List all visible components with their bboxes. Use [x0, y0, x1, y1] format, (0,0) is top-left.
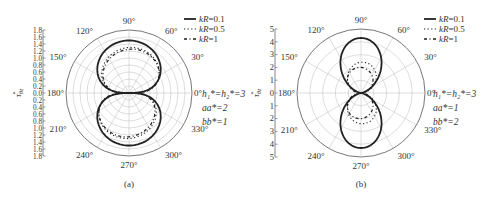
parameter-text: h₁*=h₂*=3: [202, 89, 245, 99]
axis-tick-label: 1.8: [33, 153, 42, 161]
axis-tick-label: 3: [270, 49, 274, 59]
angle-label: 120°: [307, 25, 325, 35]
legend-label-value: =0.1: [449, 14, 465, 24]
legend-label: kR=1: [199, 34, 218, 44]
legend-label-value: =1: [449, 34, 459, 44]
angle-label: 60°: [398, 25, 411, 35]
legend-label-value: =0.5: [209, 24, 226, 34]
legend: kR=0.1kR=0.5kR=1: [184, 14, 225, 44]
panel-label: (b): [356, 179, 367, 189]
legend-label: kR=0.1: [439, 14, 465, 24]
y-axis-label: τθz*: [12, 88, 24, 97]
angle-label: 90°: [355, 15, 368, 25]
angle-label: 300°: [398, 151, 416, 161]
parameter-text: aa*=1: [433, 103, 458, 113]
y-axis-label-subscript: θz: [18, 88, 24, 94]
angle-label: 120°: [76, 26, 94, 36]
legend-label: kR=0.1: [199, 14, 225, 24]
panel-label: (a): [124, 179, 134, 189]
panel-b-polar-chart: 0°30°60°90°120°150°180°210°240°270°300°3…: [250, 14, 476, 189]
panel-a-polar-chart: 0°30°60°90°120°150°180°210°240°270°300°3…: [12, 14, 245, 189]
angle-label: 300°: [165, 150, 183, 160]
figure: 0°30°60°90°120°150°180°210°240°270°300°3…: [0, 0, 480, 199]
legend-label-var: kR: [439, 24, 449, 34]
angle-label: 270°: [120, 160, 138, 170]
axis-tick-label: 4: [270, 139, 275, 149]
angle-label: 150°: [281, 52, 299, 62]
y-axis-label-subscript: θz: [256, 88, 262, 94]
parameter-text: bb*=1: [202, 117, 227, 127]
angle-label: 270°: [352, 161, 370, 171]
radial-axis: 1.81.61.41.21.00.80.60.40.20.00.20.40.60…: [12, 27, 46, 161]
parameter-text: h₁*=h₂*=3: [433, 89, 476, 99]
y-axis-label: τθz*: [250, 88, 262, 97]
axis-tick-label: 1: [270, 101, 274, 111]
y-axis-label-superscript: *: [250, 92, 256, 95]
angle-label: 210°: [50, 124, 68, 134]
legend-label: kR=0.5: [199, 24, 225, 34]
angle-label: 30°: [191, 52, 204, 62]
angle-label: 240°: [76, 150, 94, 160]
legend-label-var: kR: [199, 24, 209, 34]
legend-label: kR=0.5: [439, 24, 465, 34]
legend-label-value: =0.1: [209, 14, 225, 24]
legend-label-var: kR: [439, 34, 449, 44]
axis-tick-label: 2: [270, 62, 274, 72]
angle-label: 180°: [47, 88, 65, 98]
angle-label: 60°: [165, 26, 178, 36]
y-axis-label-superscript: *: [12, 92, 18, 95]
axis-tick-label: 3: [270, 126, 274, 136]
legend-label: kR=1: [439, 34, 458, 44]
parameters: h₁*=h₂*=3aa*=2bb*=1: [202, 89, 245, 127]
axis-tick-label: 1: [270, 75, 274, 85]
axis-tick-label: 5: [270, 24, 274, 34]
parameters: h₁*=h₂*=3aa*=1bb*=2: [433, 89, 476, 127]
axis-tick-label: 2: [270, 113, 274, 123]
legend: kR=0.1kR=0.5kR=1: [424, 14, 465, 44]
angle-label: 30°: [424, 52, 437, 62]
axis-tick-label: 0: [270, 88, 274, 98]
angle-label: 90°: [123, 16, 136, 26]
radial-axis: 54321012345τθz*: [250, 24, 278, 162]
angle-label: 150°: [50, 52, 68, 62]
legend-label-var: kR: [199, 14, 209, 24]
angle-label: 240°: [307, 151, 325, 161]
parameter-text: bb*=2: [433, 117, 459, 127]
angle-label: 180°: [278, 88, 296, 98]
legend-label-var: kR: [439, 14, 449, 24]
axis-tick-label: 5: [270, 152, 274, 162]
axis-tick-label: 4: [270, 37, 275, 47]
legend-label-var: kR: [199, 34, 209, 44]
legend-label-value: =1: [209, 34, 219, 44]
parameter-text: aa*=2: [202, 103, 228, 113]
angle-label: 210°: [281, 125, 299, 135]
legend-label-value: =0.5: [449, 24, 466, 34]
